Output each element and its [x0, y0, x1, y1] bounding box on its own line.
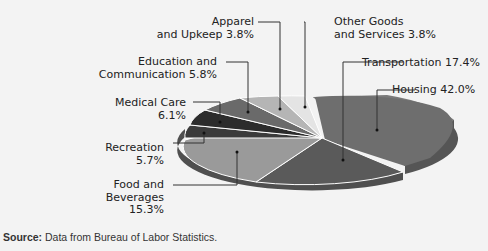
label-line: 5.7% — [105, 155, 164, 168]
label-food: Food and Beverages 15.3% — [106, 179, 164, 217]
label-housing: Housing 42.0% — [392, 84, 475, 97]
label-line: Communication 5.8% — [99, 69, 217, 82]
label-line: Apparel — [157, 16, 254, 29]
label-line: 15.3% — [106, 204, 164, 217]
label-apparel: Apparel and Upkeep 3.8% — [157, 16, 254, 41]
source-note: Source: Data from Bureau of Labor Statis… — [3, 231, 217, 243]
label-line: Food and — [106, 179, 164, 192]
label-line: Transportation 17.4% — [362, 57, 480, 70]
label-line: and Services 3.8% — [334, 29, 436, 42]
source-text: Data from Bureau of Labor Statistics. — [42, 231, 217, 243]
label-other: Other Goods and Services 3.8% — [334, 16, 436, 41]
label-medical: Medical Care 6.1% — [115, 97, 186, 122]
label-recreation: Recreation 5.7% — [105, 142, 164, 167]
label-education: Education and Communication 5.8% — [99, 56, 217, 81]
label-line: 6.1% — [115, 110, 186, 123]
label-line: Recreation — [105, 142, 164, 155]
label-line: and Upkeep 3.8% — [157, 29, 254, 42]
label-transportation: Transportation 17.4% — [362, 57, 480, 70]
label-line: Medical Care — [115, 97, 186, 110]
label-line: Housing 42.0% — [392, 84, 475, 97]
source-prefix: Source: — [3, 231, 42, 243]
label-line: Education and — [99, 56, 217, 69]
label-line: Other Goods — [334, 16, 436, 29]
